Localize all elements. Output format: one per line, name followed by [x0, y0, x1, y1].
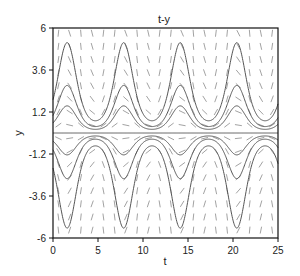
- chart-title: t-y: [158, 13, 171, 25]
- solution-curve: [53, 43, 278, 121]
- x-tick-label: 0: [50, 245, 56, 256]
- y-axis-ticks: 63.61.2-1.2-3.6-6: [29, 23, 53, 244]
- x-tick-label: 20: [227, 245, 239, 256]
- y-tick-label: -1.2: [29, 149, 47, 160]
- solution-curve: [53, 139, 278, 178]
- y-tick-label: -6: [37, 233, 46, 244]
- x-tick-label: 10: [137, 245, 149, 256]
- solution-curve: [53, 85, 278, 126]
- x-tick-label: 15: [182, 245, 194, 256]
- x-axis-ticks: 0510152025: [50, 238, 284, 256]
- y-tick-label: 6: [40, 23, 46, 34]
- x-tick-label: 25: [272, 245, 284, 256]
- x-axis-label: t: [163, 255, 166, 267]
- y-tick-label: 3.6: [32, 65, 46, 76]
- solution-curve: [53, 146, 278, 228]
- solution-curves: [53, 43, 278, 229]
- y-axis-label: y: [12, 130, 24, 136]
- t-y-chart: t-y 63.61.2-1.2-3.6-6 0510152025 t y: [0, 0, 300, 276]
- y-tick-label: -3.6: [29, 191, 47, 202]
- x-tick-label: 5: [95, 245, 101, 256]
- y-tick-label: 1.2: [32, 107, 46, 118]
